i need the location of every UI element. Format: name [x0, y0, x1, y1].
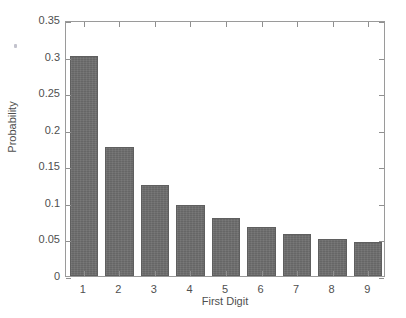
bar-1	[70, 56, 98, 276]
x-tick-label: 6	[249, 284, 273, 295]
y-tick-label: 0.1	[0, 198, 60, 209]
x-tick-mark	[119, 271, 120, 276]
x-tick-label: 9	[355, 284, 379, 295]
y-tick-label: 0.35	[0, 15, 60, 26]
x-tick-mark	[190, 271, 191, 276]
x-tick-mark	[333, 271, 334, 276]
y-tick-mark	[66, 59, 71, 60]
bar-6	[247, 227, 275, 276]
scan-artifact-dot	[14, 44, 17, 48]
x-tick-mark	[84, 271, 85, 276]
y-tick-mark-right	[379, 95, 384, 96]
y-tick-mark	[66, 241, 71, 242]
x-tick-mark	[155, 271, 156, 276]
x-tick-label: 5	[213, 284, 237, 295]
y-tick-mark-right	[379, 22, 384, 23]
y-tick-label: 0.25	[0, 88, 60, 99]
y-tick-mark-right	[379, 132, 384, 133]
x-tick-mark	[226, 271, 227, 276]
x-tick-mark-top	[155, 22, 156, 27]
y-tick-mark-right	[379, 168, 384, 169]
y-tick-mark	[66, 95, 71, 96]
x-tick-label: 1	[71, 284, 95, 295]
y-tick-mark	[66, 22, 71, 23]
y-tick-mark	[66, 168, 71, 169]
x-tick-label: 7	[284, 284, 308, 295]
bar-2	[105, 147, 133, 276]
plot-area	[66, 22, 384, 276]
x-tick-label: 4	[177, 284, 201, 295]
plot-box	[65, 21, 385, 277]
y-tick-label: 0.15	[0, 161, 60, 172]
y-tick-mark-right	[379, 205, 384, 206]
figure-canvas: Probability First Digit 00.050.10.150.20…	[0, 0, 406, 318]
x-tick-mark	[297, 271, 298, 276]
x-axis-title: First Digit	[65, 296, 385, 307]
y-tick-label: 0.2	[0, 125, 60, 136]
x-tick-mark-top	[119, 22, 120, 27]
y-tick-mark	[66, 278, 71, 279]
x-tick-mark	[262, 271, 263, 276]
y-tick-label: 0	[0, 271, 60, 282]
bar-7	[283, 234, 311, 276]
x-tick-mark-top	[333, 22, 334, 27]
x-tick-label: 8	[320, 284, 344, 295]
x-tick-mark-top	[262, 22, 263, 27]
bar-5	[212, 218, 240, 276]
bar-4	[176, 205, 204, 276]
y-tick-mark	[66, 205, 71, 206]
x-tick-mark-top	[226, 22, 227, 27]
y-tick-mark-right	[379, 241, 384, 242]
x-tick-label: 3	[142, 284, 166, 295]
bar-3	[141, 185, 169, 276]
x-tick-mark-top	[190, 22, 191, 27]
x-tick-mark-top	[84, 22, 85, 27]
y-tick-label: 0.05	[0, 234, 60, 245]
x-tick-label: 2	[106, 284, 130, 295]
x-tick-mark-top	[297, 22, 298, 27]
x-tick-mark-top	[368, 22, 369, 27]
y-tick-mark	[66, 132, 71, 133]
y-tick-label: 0.3	[0, 52, 60, 63]
x-tick-mark	[368, 271, 369, 276]
y-tick-mark-right	[379, 278, 384, 279]
y-tick-mark-right	[379, 59, 384, 60]
